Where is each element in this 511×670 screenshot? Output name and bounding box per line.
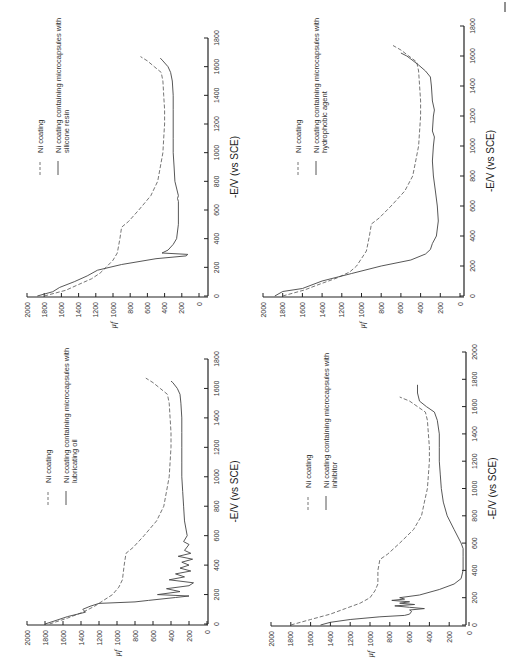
value-tick-label: 400 <box>426 631 433 643</box>
potential-tick-label: 1600 <box>469 48 476 64</box>
legend-label: silicone resin <box>62 110 71 153</box>
x-axis-title: -E/V (vs SCE) <box>487 457 498 519</box>
value-tick-label: 200 <box>186 630 193 642</box>
potential-tick-label: 1000 <box>469 138 476 154</box>
potential-tick-label: 0 <box>471 623 478 627</box>
value-tick-label: 0 <box>196 302 203 306</box>
potential-tick-label: 0 <box>469 294 476 298</box>
potential-tick-label: 800 <box>469 170 476 182</box>
value-tick-label: 600 <box>406 631 413 643</box>
y-axis-title: μf <box>109 320 118 329</box>
value-tick-label: 2000 <box>24 302 31 318</box>
value-tick-label: 1400 <box>327 631 334 647</box>
potential-tick-label: 1000 <box>213 469 220 485</box>
potential-tick-label: 1400 <box>213 87 220 103</box>
value-tick-label: 800 <box>386 631 393 643</box>
value-tick-label: 1800 <box>42 630 49 646</box>
potential-tick-label: 200 <box>213 589 220 601</box>
value-tick-label: 1000 <box>114 630 121 646</box>
value-tick-label: 1800 <box>279 302 286 318</box>
potential-tick-label: 0 <box>213 294 220 298</box>
chart-panel-bottom-left: 2000180016001400120010008006004002000020… <box>24 348 241 657</box>
potential-tick-label: 200 <box>471 592 478 604</box>
value-tick-label: 800 <box>132 630 139 642</box>
value-tick-label: 0 <box>457 302 464 306</box>
potential-tick-label: 1200 <box>213 439 220 455</box>
series-line-ni-coating <box>283 46 421 297</box>
legend-label: lubricating oil <box>70 439 79 483</box>
legend-label: hydrophobic agent <box>320 90 329 153</box>
value-tick-label: 1200 <box>347 631 354 647</box>
potential-tick-label: 1800 <box>469 18 476 34</box>
legend-label: Ni coating <box>304 455 313 488</box>
potential-tick-label: 2000 <box>471 344 478 360</box>
legend: Ni coatingNi coating containing microcap… <box>36 18 72 175</box>
potential-tick-label: 800 <box>471 510 478 522</box>
y-axis-title: μf <box>366 649 375 658</box>
value-tick-label: 200 <box>446 631 453 643</box>
value-tick-label: 1200 <box>338 302 345 318</box>
legend-label: Ni coating <box>294 120 303 153</box>
potential-tick-label: 400 <box>213 233 220 245</box>
chart-panel-top-right: 2000180016001400120010008006004002000020… <box>260 18 497 329</box>
potential-tick-label: 1600 <box>213 59 220 75</box>
value-tick-label: 400 <box>161 302 168 314</box>
series-line-ni-coating <box>291 397 430 625</box>
potential-tick-label: 1000 <box>471 481 478 497</box>
value-tick-label: 0 <box>466 631 473 635</box>
series-line-microcapsule-coating <box>275 53 439 296</box>
potential-tick-label: 600 <box>469 200 476 212</box>
potential-tick-label: 1800 <box>213 351 220 367</box>
value-tick-label: 1400 <box>78 630 85 646</box>
value-tick-label: 2000 <box>24 630 31 646</box>
chart-panel-bottom-right: 2000180016001400120010008006004002000020… <box>268 344 499 658</box>
legend: Ni coatingNi coating containing microcap… <box>44 348 80 505</box>
potential-tick-label: 1200 <box>471 453 478 469</box>
legend: Ni coatingNi coating containing microcap… <box>294 18 330 175</box>
value-tick-label: 400 <box>417 302 424 314</box>
potential-tick-label: 1400 <box>213 410 220 426</box>
potential-tick-label: 1200 <box>213 116 220 132</box>
value-tick-label: 1400 <box>319 302 326 318</box>
value-tick-label: 1800 <box>41 302 48 318</box>
x-axis-title: -E/V (vs SCE) <box>229 136 240 198</box>
potential-tick-label: 400 <box>213 559 220 571</box>
value-tick-label: 800 <box>127 302 134 314</box>
value-tick-label: 400 <box>168 630 175 642</box>
potential-tick-label: 1200 <box>469 108 476 124</box>
potential-tick-label: 1400 <box>471 426 478 442</box>
potential-tick-label: 1800 <box>213 30 220 46</box>
value-tick-label: 800 <box>378 302 385 314</box>
legend-label: Ni coating <box>44 450 53 483</box>
value-tick-label: 1000 <box>367 631 374 647</box>
value-tick-label: 2000 <box>260 302 267 318</box>
value-tick-label: 600 <box>144 302 151 314</box>
potential-tick-label: 800 <box>213 175 220 187</box>
value-tick-label: 200 <box>178 302 185 314</box>
value-tick-label: 600 <box>397 302 404 314</box>
potential-tick-label: 1000 <box>213 145 220 161</box>
potential-tick-label: 1600 <box>213 381 220 397</box>
legend-label: inhibitor <box>330 461 339 488</box>
potential-tick-label: 1400 <box>469 78 476 94</box>
potential-tick-label: 200 <box>469 260 476 272</box>
potential-tick-label: 1800 <box>471 371 478 387</box>
value-tick-label: 600 <box>150 630 157 642</box>
legend-label: Ni coating <box>36 120 45 153</box>
value-tick-label: 1400 <box>75 302 82 318</box>
potential-tick-label: 400 <box>471 564 478 576</box>
value-tick-label: 1000 <box>110 302 117 318</box>
value-tick-label: 2000 <box>268 631 275 647</box>
value-tick-label: 1200 <box>92 302 99 318</box>
potential-tick-label: 600 <box>213 530 220 542</box>
figure: 2000180016001400120010008006004002000020… <box>0 0 511 670</box>
value-tick-label: 1000 <box>358 302 365 318</box>
y-axis-title: μf <box>113 648 122 657</box>
legend: Ni coatingNi coating containing microcap… <box>304 353 340 510</box>
y-axis-title: μf <box>358 320 367 329</box>
value-tick-label: 200 <box>437 302 444 314</box>
potential-tick-label: 200 <box>213 261 220 273</box>
potential-tick-label: 600 <box>213 204 220 216</box>
x-axis-title: -E/V (vs SCE) <box>485 130 496 192</box>
x-axis-title: -E/V (vs SCE) <box>229 460 240 522</box>
